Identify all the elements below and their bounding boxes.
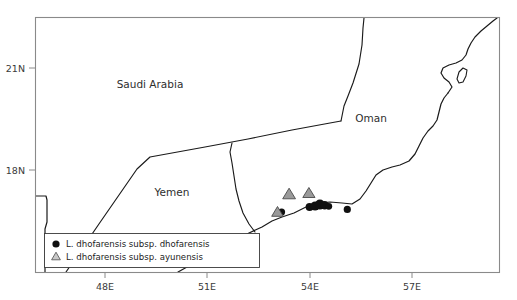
legend: L. dhofarensis subsp. dhofarensis L. dho… (45, 234, 260, 268)
data-point (344, 206, 351, 213)
map-figure: 48E 51E 54E 57E 21N 18N (0, 0, 517, 300)
x-tick-label-48e: 48E (96, 281, 114, 292)
data-point (325, 203, 332, 210)
x-tick-label-54e: 54E (301, 281, 319, 292)
country-label-saudi-arabia: Saudi Arabia (117, 78, 184, 90)
x-tick-label-51e: 51E (198, 281, 216, 292)
legend-item-label-ayunensis: L. dhofarensis subsp. ayunensis (66, 252, 203, 262)
country-label-oman: Oman (355, 112, 387, 124)
y-tick-label-18n: 18N (6, 165, 25, 176)
country-label-yemen: Yemen (154, 186, 190, 198)
x-tick-label-57e: 57E (403, 281, 421, 292)
legend-item-label-dhofarensis: L. dhofarensis subsp. dhofarensis (66, 239, 210, 249)
map-canvas: 48E 51E 54E 57E 21N 18N (0, 0, 517, 300)
y-tick-label-21n: 21N (6, 63, 25, 74)
filled-circle-marker (52, 240, 59, 247)
